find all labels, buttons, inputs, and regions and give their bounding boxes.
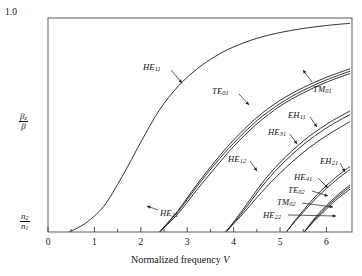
beta-denominator: β xyxy=(19,121,28,131)
mode-label-base: EH xyxy=(288,110,300,120)
x-tick-label-0: 0 xyxy=(38,237,58,247)
plot-background xyxy=(48,18,352,232)
mode-label-te01: TE01 xyxy=(212,86,229,96)
mode-label-subscript: 12 xyxy=(240,157,247,164)
mode-label-subscript: 01 xyxy=(222,89,229,96)
mode-label-base: HE xyxy=(228,154,240,164)
mode-label-eh11: EH11 xyxy=(288,110,306,120)
x-axis-title: Normalized frequency V xyxy=(131,254,229,265)
n1-denominator: n1 xyxy=(20,221,30,231)
mode-label-he31: HE31 xyxy=(268,127,286,137)
mode-label-subscript: 21 xyxy=(332,159,339,166)
mode-label-he11: HE11 xyxy=(143,62,161,72)
mode-label-base: HE xyxy=(143,62,155,72)
mode-label-base: HE xyxy=(268,127,280,137)
mode-label-subscript: 41 xyxy=(306,175,313,182)
y-axis-label-index: n2 n1 xyxy=(20,212,30,231)
mode-label-subscript: 22 xyxy=(275,213,282,220)
x-axis-title-symbol: V xyxy=(223,254,229,265)
mode-label-subscript: 11 xyxy=(155,65,161,72)
mode-label-base: TE xyxy=(212,86,222,96)
mode-label-tm02: TM02 xyxy=(277,197,296,207)
x-tick-label-4: 4 xyxy=(224,237,244,247)
mode-label-he22: HE22 xyxy=(263,210,281,220)
x-tick-label-6: 6 xyxy=(316,237,336,247)
mode-label-tm01: TM01 xyxy=(313,84,332,94)
x-axis-title-text: Normalized frequency xyxy=(131,254,223,265)
y-axis-label-beta: βz β xyxy=(19,112,28,131)
y-axis-top-value: 1.0 xyxy=(5,7,17,17)
mode-label-base: TM xyxy=(277,197,289,207)
mode-label-subscript: 01 xyxy=(325,87,332,94)
mode-label-base: EH xyxy=(320,156,332,166)
mode-label-subscript: 02 xyxy=(289,200,296,207)
n2-numerator: n2 xyxy=(20,212,30,221)
mode-label-base: TM xyxy=(313,84,325,94)
mode-label-he12: HE12 xyxy=(228,154,246,164)
mode-label-te02: TE02 xyxy=(288,185,305,195)
mode-label-base: HE xyxy=(263,210,275,220)
mode-dispersion-chart xyxy=(0,0,362,276)
beta-z-numerator: βz xyxy=(19,112,28,121)
mode-label-subscript: 31 xyxy=(280,130,287,137)
mode-label-eh21: EH21 xyxy=(320,156,338,166)
mode-label-base: TE xyxy=(288,185,298,195)
mode-label-subscript: 21 xyxy=(172,211,179,218)
mode-label-subscript: 11 xyxy=(300,113,306,120)
x-tick-label-1: 1 xyxy=(84,237,104,247)
mode-label-subscript: 02 xyxy=(298,188,305,195)
x-tick-label-3: 3 xyxy=(177,237,197,247)
x-tick-label-2: 2 xyxy=(131,237,151,247)
mode-label-base: HE xyxy=(294,172,306,182)
mode-label-base: HE xyxy=(160,208,172,218)
mode-label-he21: HE21 xyxy=(160,208,178,218)
mode-label-he41: HE41 xyxy=(294,172,312,182)
x-tick-label-5: 5 xyxy=(270,237,290,247)
